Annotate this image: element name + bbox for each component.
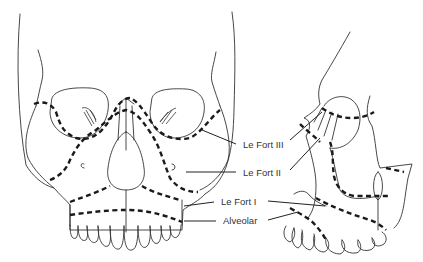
frontal-skull xyxy=(18,12,235,250)
lateral-orbit-rim xyxy=(314,108,338,140)
lateral-skull xyxy=(284,32,412,254)
lateral-lefort2-line xyxy=(330,142,404,196)
infraorbital-foramen-left xyxy=(81,164,84,168)
cheek-right xyxy=(200,106,229,190)
lateral-teeth xyxy=(284,226,386,254)
lateral-cheek xyxy=(367,96,412,228)
temporal-line-left xyxy=(36,50,43,106)
orbital-fissure-right xyxy=(160,108,176,124)
frontal-lefort2-line xyxy=(50,110,198,192)
infraorbital-foramen-right xyxy=(172,164,175,170)
lateral-lefort1-line xyxy=(316,198,386,230)
temporal-line-right xyxy=(211,52,220,106)
frontal-lefort1-line xyxy=(70,186,180,202)
labels: Le Fort III Le Fort II Le Fort I Alveola… xyxy=(184,112,325,226)
frontal-teeth xyxy=(70,225,181,250)
cheek-left xyxy=(26,106,54,188)
lateral-maxilla xyxy=(330,148,378,230)
leader-lefort1-left xyxy=(184,202,214,206)
lateral-zygoma xyxy=(324,97,360,149)
label-lefort3: Le Fort III xyxy=(243,139,284,150)
label-lefort2: Le Fort II xyxy=(243,167,281,178)
label-lefort1: Le Fort I xyxy=(221,196,256,207)
le-fort-diagram: Le Fort III Le Fort II Le Fort I Alveola… xyxy=(0,0,423,262)
nasal-bridge xyxy=(118,98,134,150)
orbital-fissure-left xyxy=(82,108,96,126)
label-alveolar: Alveolar xyxy=(223,215,257,226)
orbit-right xyxy=(150,89,204,138)
orbit-left xyxy=(50,88,108,138)
leader-lefort3-left xyxy=(202,130,236,144)
leader-alveolar-right xyxy=(268,212,298,220)
leader-lefort2-right xyxy=(290,138,320,170)
